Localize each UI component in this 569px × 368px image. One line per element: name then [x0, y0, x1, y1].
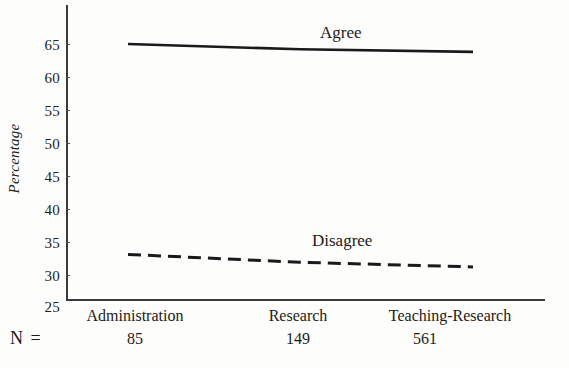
n-row-title: N = — [10, 328, 42, 348]
series-label-agree: Agree — [320, 24, 362, 42]
n-value-administration: 85 — [75, 330, 195, 348]
n-value-research: 149 — [238, 330, 358, 348]
n-value-teaching-research: 561 — [365, 330, 485, 348]
series-label-disagree: Disagree — [312, 232, 372, 250]
series-line-disagree — [128, 254, 473, 267]
series-line-agree — [128, 44, 473, 52]
x-category-label-administration: Administration — [45, 306, 225, 325]
x-category-label-teaching-research: Teaching-Research — [345, 306, 555, 325]
chart-figure: 65 60 55 50 45 40 35 30 25 Percentage Ag… — [0, 0, 569, 368]
